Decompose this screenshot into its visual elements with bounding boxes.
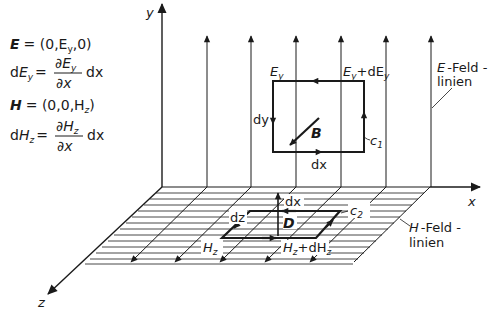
eq-dey-tail: dx — [86, 64, 103, 80]
h-field-label-line1: H-Feld - — [409, 220, 461, 235]
c2-right-arrow — [326, 220, 333, 227]
c1-ey-label: Ey — [270, 64, 284, 81]
eq-dey-lhs: dEy= — [10, 64, 47, 82]
c1-ey-plus-dey-label: Ey+dEy — [343, 64, 390, 81]
z-axis-label: z — [37, 295, 46, 310]
y-axis-label: y — [145, 5, 154, 20]
eq-dhz-tail: dx — [87, 127, 104, 143]
c2-dz-label: dz — [230, 210, 245, 225]
c2-dx-label: dx — [285, 194, 301, 209]
c2-hz-plus-dhz-label: Hz+dHz — [283, 240, 331, 257]
e-field-label-line1: E-Feld - — [437, 60, 488, 75]
h-field-label-line2: linien — [409, 235, 444, 250]
b-field-label: B — [311, 125, 322, 141]
h-field-plane — [85, 187, 430, 264]
e-field-label-line2: linien — [437, 74, 472, 89]
c1-dy-label: dy — [253, 112, 269, 127]
axes — [48, 4, 480, 294]
z-axis — [48, 187, 162, 294]
c1-dx-label: dx — [311, 157, 327, 172]
eq-e-definition: E= (0,Ey,0) — [10, 36, 92, 54]
loop-c1 — [273, 81, 370, 152]
c1-label: c1 — [370, 133, 383, 150]
equations: E= (0,Ey,0) dEy= ∂Ey ∂x dx H= (0,0,Hz) d… — [10, 36, 104, 154]
h-plane-diagonals — [131, 187, 430, 262]
eq-dhz-lhs: dHz= — [10, 127, 48, 145]
x-axis-label: x — [467, 194, 476, 209]
e-field-leader — [432, 88, 452, 108]
eq-dey-denominator: ∂x — [56, 75, 72, 91]
eq-dey-numerator: ∂Ey — [55, 55, 77, 73]
d-field-label: D — [283, 215, 295, 231]
eq-dhz-denominator: ∂x — [57, 138, 73, 154]
eq-h-definition: H= (0,0,Hz) — [10, 97, 95, 115]
eq-dhz-numerator: ∂Hz — [56, 118, 79, 136]
maxwell-field-diagram: y x z Ey Ey+dEy dy dx B c1 — [0, 0, 501, 321]
